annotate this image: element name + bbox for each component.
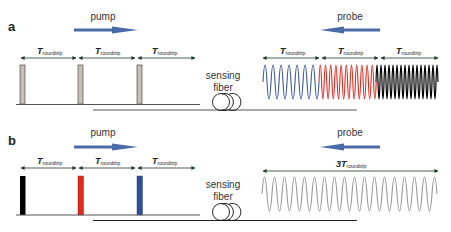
probe-label: probe <box>337 11 363 22</box>
probe-waves <box>263 65 438 99</box>
pump-pulses <box>20 65 142 104</box>
panel-b-label: b <box>8 133 16 148</box>
sensing-fiber-label-line2: fiber <box>213 82 233 93</box>
svg-text:Troundtrip: Troundtrip <box>280 46 305 56</box>
sensing-fiber-label-line1: sensing <box>206 179 240 190</box>
diagram-canvas: a pump probe Troundtrip Troundtrip Troun… <box>0 0 451 232</box>
svg-text:Troundtrip: Troundtrip <box>396 46 421 56</box>
probe-interval-label: 3Troundtrip <box>336 159 366 169</box>
svg-text:Troundtrip: Troundtrip <box>95 46 120 56</box>
pump-interval-labels: Troundtrip Troundtrip Troundtrip <box>37 46 177 56</box>
probe-wave-black <box>376 65 438 99</box>
fiber-coil-icon <box>213 204 241 221</box>
panel-b: b pump probe Troundtrip Troundtrip Troun… <box>8 127 438 221</box>
svg-text:Troundtrip: Troundtrip <box>152 156 177 166</box>
probe-wave-blue <box>263 65 319 99</box>
probe-label: probe <box>337 127 363 138</box>
pump-label: pump <box>90 127 115 138</box>
probe-direction-arrow-icon <box>320 27 380 34</box>
sensing-fiber-label-line1: sensing <box>206 70 240 81</box>
pump-interval-labels: Troundtrip Troundtrip Troundtrip <box>37 156 177 166</box>
panel-a: a pump probe Troundtrip Troundtrip Troun… <box>8 11 438 111</box>
pump-pulses <box>20 176 143 215</box>
svg-text:Troundtrip: Troundtrip <box>37 46 62 56</box>
probe-direction-arrow-icon <box>320 144 380 151</box>
pump-label: pump <box>90 11 115 22</box>
probe-interval-labels: Troundtrip Troundtrip Troundtrip <box>280 46 421 56</box>
panel-a-label: a <box>8 19 16 34</box>
svg-text:Troundtrip: Troundtrip <box>95 156 120 166</box>
fiber-coil-icon <box>213 93 241 110</box>
sensing-fiber-label-line2: fiber <box>213 191 233 202</box>
svg-text:Troundtrip: Troundtrip <box>152 46 177 56</box>
svg-text:Troundtrip: Troundtrip <box>37 156 62 166</box>
svg-text:Troundtrip: Troundtrip <box>338 46 363 56</box>
probe-wave-red <box>319 65 376 99</box>
probe-waves <box>262 177 437 211</box>
probe-wave-grey <box>262 177 437 211</box>
pump-direction-arrow-icon <box>74 27 138 34</box>
pump-direction-arrow-icon <box>74 144 138 151</box>
